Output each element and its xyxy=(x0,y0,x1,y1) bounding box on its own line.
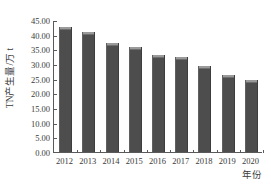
x-tick-mark xyxy=(240,150,241,153)
bar-cap xyxy=(223,75,234,78)
y-tick-mark xyxy=(54,124,57,125)
y-tick-mark xyxy=(54,109,57,110)
x-tick-mark xyxy=(77,150,78,153)
x-tick-mark xyxy=(170,150,171,153)
x-tick-label: 2017 xyxy=(172,156,189,166)
bar-2015 xyxy=(129,47,142,152)
y-tick-mark xyxy=(54,152,57,153)
y-tick-label: 15.00 xyxy=(16,105,50,114)
bar-cap xyxy=(153,55,164,58)
y-tick-label: 25.00 xyxy=(16,75,50,84)
x-tick-label: 2012 xyxy=(56,156,73,166)
x-tick-mark xyxy=(217,150,218,153)
x-tick-mark xyxy=(100,150,101,153)
bar-2016 xyxy=(152,55,165,152)
plot-area xyxy=(53,21,262,153)
x-tick-label: 2020 xyxy=(242,156,259,166)
x-axis-tick-labels: 201220132014201520162017201820192020 xyxy=(53,156,262,168)
bar-cap xyxy=(83,32,94,35)
bar-chart-figure: TN产生量/万 t 45.0040.0035.0030.0025.0020.00… xyxy=(0,0,271,196)
bar-cap xyxy=(199,66,210,69)
y-tick-label: 40.00 xyxy=(16,31,50,40)
bar-2013 xyxy=(82,32,95,152)
y-tick-label: 35.00 xyxy=(16,46,50,55)
y-tick-mark xyxy=(54,65,57,66)
y-tick-label: 45.00 xyxy=(16,17,50,26)
x-tick-mark xyxy=(193,150,194,153)
y-tick-mark xyxy=(54,138,57,139)
bar-cap xyxy=(176,57,187,60)
y-tick-mark xyxy=(54,21,57,22)
x-axis-title: 年份 xyxy=(242,170,262,180)
x-tick-mark xyxy=(147,150,148,153)
x-tick-label: 2013 xyxy=(79,156,96,166)
bar-2014 xyxy=(106,43,119,152)
bar-2012 xyxy=(59,27,72,152)
bar-2017 xyxy=(175,57,188,152)
y-tick-label: 0.00 xyxy=(16,149,50,158)
x-tick-label: 2019 xyxy=(219,156,236,166)
y-axis-title-text: TN产生量/万 t xyxy=(2,48,16,108)
x-tick-label: 2014 xyxy=(103,156,120,166)
y-axis-tick-labels: 45.0040.0035.0030.0025.0020.0015.0010.00… xyxy=(16,21,50,153)
bar-2020 xyxy=(245,80,258,152)
y-tick-mark xyxy=(54,80,57,81)
y-tick-label: 30.00 xyxy=(16,61,50,70)
bar-cap xyxy=(107,43,118,46)
y-tick-mark xyxy=(54,50,57,51)
bar-cap xyxy=(60,27,71,30)
bar-cap xyxy=(130,47,141,50)
y-tick-label: 20.00 xyxy=(16,90,50,99)
y-tick-label: 10.00 xyxy=(16,119,50,128)
y-tick-mark xyxy=(54,94,57,95)
bar-cap xyxy=(246,80,257,83)
bars-layer xyxy=(54,21,262,152)
x-tick-label: 2016 xyxy=(149,156,166,166)
x-tick-label: 2015 xyxy=(126,156,143,166)
x-tick-mark xyxy=(124,150,125,153)
bar-2018 xyxy=(198,66,211,152)
y-tick-mark xyxy=(54,36,57,37)
bar-2019 xyxy=(222,75,235,152)
y-axis-title: TN产生量/万 t xyxy=(2,18,16,138)
x-tick-mark xyxy=(263,150,264,153)
x-tick-label: 2018 xyxy=(195,156,212,166)
y-tick-label: 5.00 xyxy=(16,134,50,143)
